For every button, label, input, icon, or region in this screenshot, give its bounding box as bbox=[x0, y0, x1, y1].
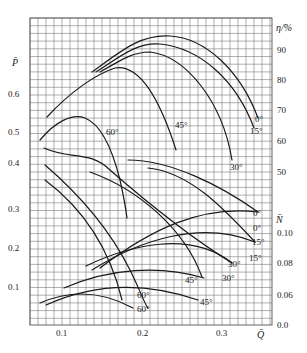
y-left-tick: 0.5 bbox=[8, 127, 20, 137]
label-60b: 60° bbox=[137, 304, 150, 314]
y-left-tick: 0.6 bbox=[8, 89, 20, 99]
label-0b: 0° bbox=[253, 223, 262, 233]
label-eta-15: 15° bbox=[250, 126, 263, 136]
y-left-axis-title: P̄ bbox=[11, 57, 18, 68]
label-30b: 30° bbox=[222, 273, 235, 283]
y-right-N-tick: 0.10 bbox=[277, 228, 293, 238]
x-tick: 0.2 bbox=[137, 328, 148, 338]
label-30a: 30° bbox=[228, 259, 241, 269]
y-right-eta-tick: 80 bbox=[277, 75, 287, 85]
label-15b: 15° bbox=[249, 253, 262, 263]
label-60a: 60° bbox=[137, 290, 150, 300]
y-right-eta-tick: 90 bbox=[277, 45, 287, 55]
x-tick: 0.3 bbox=[216, 328, 228, 338]
y-right-eta-tick: 60 bbox=[277, 136, 287, 146]
p-curve-b bbox=[45, 180, 122, 300]
y-right-eta-tick: 50 bbox=[277, 167, 287, 177]
y-right-eta-title: η/% bbox=[276, 22, 292, 33]
label-p-60: 60° bbox=[106, 127, 119, 137]
y-right-N-tick: 0.06 bbox=[277, 290, 293, 300]
y-right-N-tick: 0.08 bbox=[277, 258, 293, 268]
label-eta-30: 30° bbox=[230, 162, 243, 172]
y-left-tick: 0.2 bbox=[8, 243, 19, 253]
label-0a: 0° bbox=[253, 208, 262, 218]
chart-canvas: P̄ 0.6 0.5 0.4 0.3 0.2 0.1 η/% 90 80 70 … bbox=[0, 0, 307, 353]
eta-curve-45-base bbox=[47, 68, 176, 150]
y-right-eta-tick: 70 bbox=[277, 105, 287, 115]
label-eta-0: 0° bbox=[255, 114, 264, 124]
label-45a: 45° bbox=[185, 275, 198, 285]
p-curve-30 bbox=[44, 148, 232, 263]
performance-chart: P̄ 0.6 0.5 0.4 0.3 0.2 0.1 η/% 90 80 70 … bbox=[0, 0, 307, 353]
x-axis-title: Q̄ bbox=[257, 329, 265, 340]
label-eta-45: 45° bbox=[175, 120, 188, 130]
y-right-N-tick: 0.0 bbox=[277, 320, 289, 330]
y-left-tick: 0.3 bbox=[8, 204, 20, 214]
y-right-N-title: N̄ bbox=[275, 214, 284, 225]
y-left-tick: 0.1 bbox=[8, 282, 19, 292]
y-left-tick: 0.4 bbox=[8, 158, 20, 168]
label-15a: 15° bbox=[252, 237, 265, 247]
label-45b: 45° bbox=[200, 297, 213, 307]
eta-curve-0 bbox=[92, 36, 258, 118]
x-tick: 0.1 bbox=[56, 328, 67, 338]
